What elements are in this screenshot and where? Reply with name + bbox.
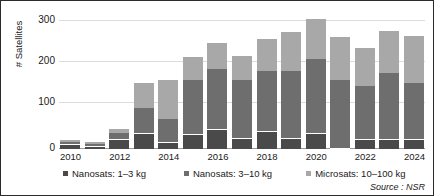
bar-segment xyxy=(404,140,424,149)
bar-segment xyxy=(109,140,129,149)
bar-segment xyxy=(379,31,399,74)
legend-label: Nanosats: 1–3 kg xyxy=(72,168,146,179)
bar-segment xyxy=(207,43,227,68)
bar-segment xyxy=(330,80,350,149)
bar-column xyxy=(404,15,424,149)
legend-swatch-icon xyxy=(306,171,311,176)
bar-segment xyxy=(134,134,154,149)
bar-column xyxy=(232,15,252,149)
legend-item-nanosats-3-10kg: Nanosats: 3–10 kg xyxy=(184,168,272,179)
bar-segment xyxy=(158,119,178,142)
y-tick-0: 0 xyxy=(49,143,55,153)
bar-column xyxy=(281,15,301,149)
legend-item-nanosats-1-3kg: Nanosats: 1–3 kg xyxy=(63,168,146,179)
bar-column xyxy=(109,15,129,149)
bar-segment xyxy=(109,133,129,140)
source-note: Source : NSR xyxy=(370,182,425,192)
bar-segment xyxy=(207,69,227,131)
chart-legend: Nanosats: 1–3 kg Nanosats: 3–10 kg Micro… xyxy=(57,167,425,180)
x-axis-ticks: 20102012201420162018202020222024 xyxy=(59,151,425,164)
bar-series-group xyxy=(59,15,425,149)
bar-column xyxy=(306,15,326,149)
bar-column xyxy=(257,15,277,149)
x-tick-label: 2012 xyxy=(109,151,129,164)
bar-segment xyxy=(158,143,178,149)
y-axis-ticks: 300 200 100 0 xyxy=(23,15,55,149)
bar-segment xyxy=(207,130,227,149)
y-tick-300: 300 xyxy=(38,15,55,25)
bar-column xyxy=(134,15,154,149)
bar-segment xyxy=(257,132,277,149)
bar-segment xyxy=(232,80,252,138)
x-tick-blank xyxy=(183,151,203,164)
x-tick-label: 2018 xyxy=(257,151,277,164)
bar-segment xyxy=(330,37,350,80)
bar-segment xyxy=(404,83,424,139)
y-tick-200: 200 xyxy=(38,56,55,66)
y-tick-100: 100 xyxy=(38,97,55,107)
bar-column xyxy=(60,15,80,149)
satellite-launch-bar-chart: # Satellites 300 200 100 0 2010201220142… xyxy=(0,0,434,196)
bar-segment xyxy=(355,86,375,140)
bar-segment xyxy=(183,57,203,81)
plot-area xyxy=(59,15,425,149)
x-tick-blank xyxy=(85,151,105,164)
bar-segment xyxy=(281,139,301,149)
x-tick-label: 2020 xyxy=(306,151,326,164)
x-tick-blank xyxy=(281,151,301,164)
bar-segment xyxy=(306,134,326,149)
legend-label: Microsats: 10–100 kg xyxy=(315,168,405,179)
x-tick-label: 2010 xyxy=(60,151,80,164)
bar-segment xyxy=(281,32,301,71)
x-tick-blank xyxy=(330,151,350,164)
bar-segment xyxy=(379,73,399,140)
bar-column xyxy=(183,15,203,149)
x-tick-label: 2024 xyxy=(404,151,424,164)
bar-segment xyxy=(306,59,326,134)
legend-swatch-icon xyxy=(184,171,189,176)
bar-segment xyxy=(355,48,375,86)
bar-column xyxy=(207,15,227,149)
bar-column xyxy=(158,15,178,149)
bar-segment xyxy=(85,147,105,149)
legend-label: Nanosats: 3–10 kg xyxy=(193,168,272,179)
bar-segment xyxy=(306,19,326,59)
bar-column xyxy=(379,15,399,149)
bar-segment xyxy=(183,135,203,149)
legend-swatch-icon xyxy=(63,171,68,176)
x-tick-label: 2022 xyxy=(355,151,375,164)
x-tick-blank xyxy=(379,151,399,164)
x-tick-label: 2014 xyxy=(158,151,178,164)
bar-segment xyxy=(232,139,252,149)
x-tick-label: 2016 xyxy=(207,151,227,164)
bar-segment xyxy=(134,108,154,133)
bar-segment xyxy=(281,71,301,139)
bar-segment xyxy=(379,140,399,149)
bar-segment xyxy=(257,39,277,71)
x-tick-blank xyxy=(134,151,154,164)
legend-item-microsats-10-100kg: Microsats: 10–100 kg xyxy=(306,168,405,179)
bar-segment xyxy=(257,71,277,132)
bar-column xyxy=(330,15,350,149)
bar-segment xyxy=(355,140,375,149)
bar-column xyxy=(355,15,375,149)
bar-segment xyxy=(183,80,203,135)
bar-segment xyxy=(404,36,424,84)
bar-column xyxy=(85,15,105,149)
bar-segment xyxy=(232,56,252,81)
bar-segment xyxy=(134,83,154,108)
bar-segment xyxy=(158,80,178,120)
bar-segment xyxy=(60,145,80,149)
x-tick-blank xyxy=(232,151,252,164)
